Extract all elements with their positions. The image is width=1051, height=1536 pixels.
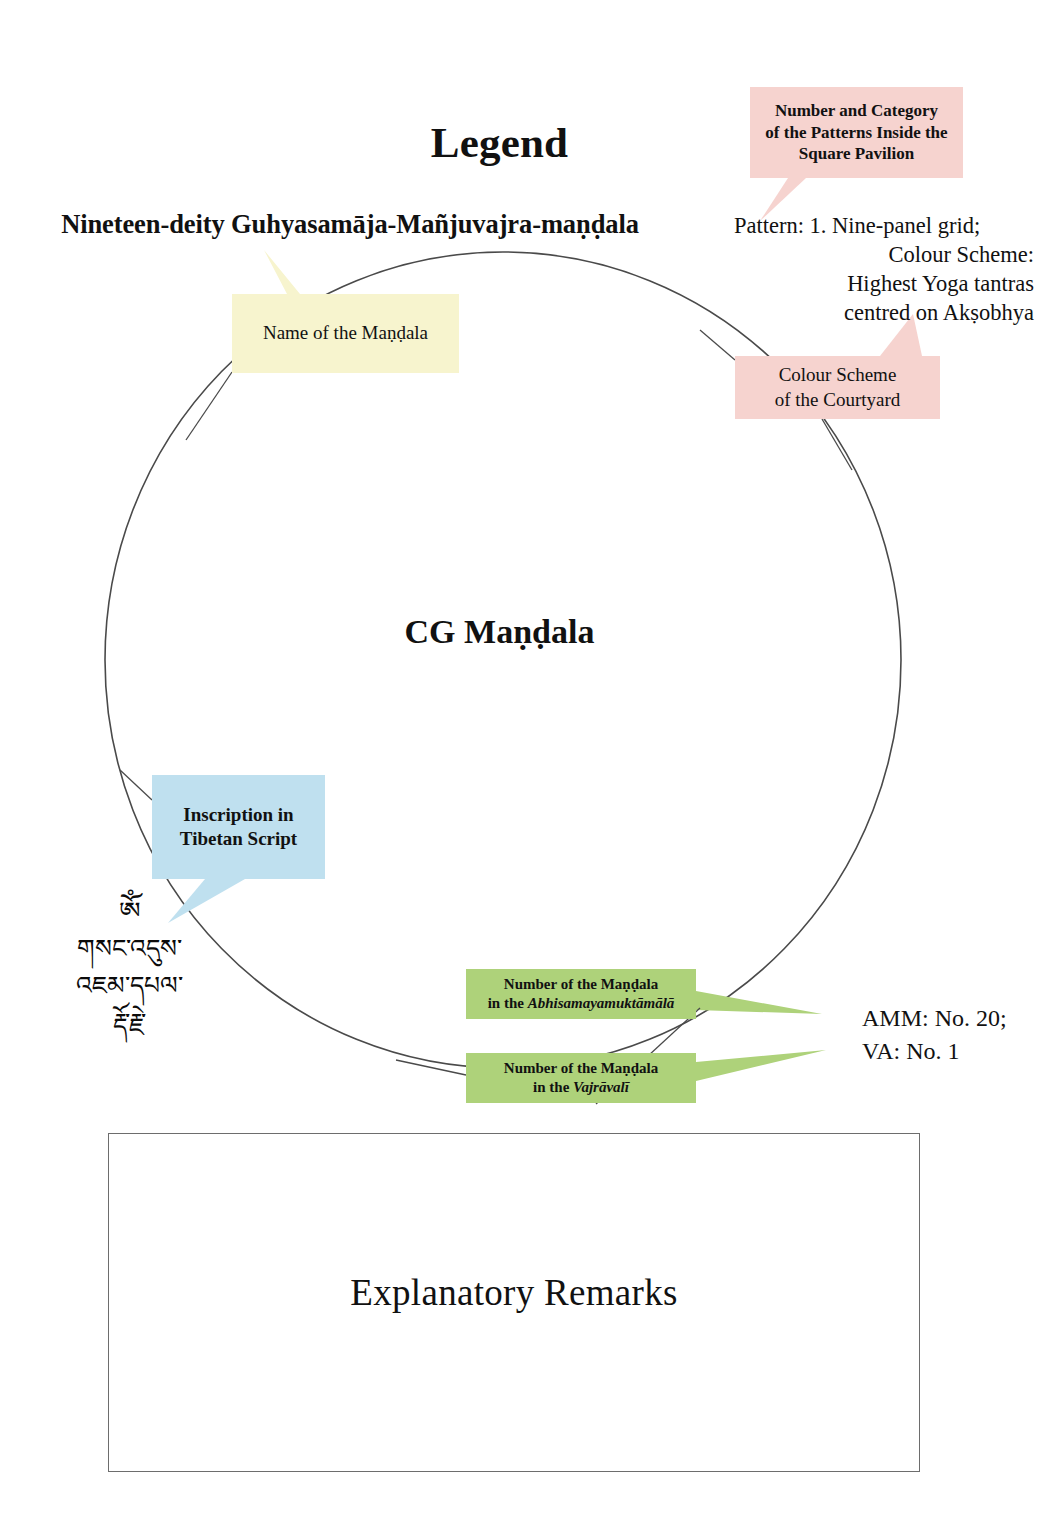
pattern-line-3: Highest Yoga tantras xyxy=(734,269,1034,298)
callout-inscription-tibetan-label: Inscription in Tibetan Script xyxy=(180,803,297,852)
legend-diagram: Legend Nineteen-deity Guhyasamāja-Mañjuv… xyxy=(0,0,1051,1536)
tibetan-line-3: འཇམ་དཔལ་ xyxy=(42,967,217,1004)
cg-mandala-label: CG Maṇḍala xyxy=(0,613,1025,651)
callout-amm-line-1: Number of the Maṇḍala xyxy=(504,976,658,992)
callout-patterns-inside-pavilion: Number and Category of the Patterns Insi… xyxy=(750,87,963,178)
tibetan-inscription-text: ༀ གསང་འདུས་ འཇམ་དཔལ་ རྡོ་རྗེ་ xyxy=(42,893,217,1041)
leader-line-colour-down xyxy=(822,419,852,470)
callout-amm-work-title: Abhisamayamuktāmālā xyxy=(528,995,675,1011)
leader-line-inscription xyxy=(120,770,152,800)
amm-callout-tail xyxy=(696,991,822,1014)
callout-inscription-tibetan: Inscription in Tibetan Script xyxy=(152,775,325,879)
callout-number-in-va: Number of the Maṇḍala in the Vajrāvalī xyxy=(466,1053,696,1103)
tibetan-line-2: གསང་འདུས་ xyxy=(42,930,217,967)
tibetan-line-4: རྡོ་རྗེ་ xyxy=(42,1004,217,1041)
callout-colour-line-2: of the Courtyard xyxy=(775,389,901,410)
tibetan-line-1: ༀ xyxy=(42,893,217,930)
mandala-name-heading: Nineteen-deity Guhyasamāja-Mañjuvajra-ma… xyxy=(0,209,700,240)
callout-name-of-mandala-label: Name of the Maṇḍala xyxy=(263,321,428,345)
leader-line-colour xyxy=(700,330,735,360)
callout-number-in-amm-label: Number of the Maṇḍala in the Abhisamayam… xyxy=(488,975,675,1013)
explanatory-remarks-label: Explanatory Remarks xyxy=(108,1271,920,1314)
callout-colour-scheme-courtyard: Colour Scheme of the Courtyard xyxy=(735,356,940,419)
callout-patterns-line-2: of the Patterns Inside the xyxy=(765,123,947,142)
leader-line-va xyxy=(396,1060,466,1075)
callout-inscription-line-1: Inscription in xyxy=(183,804,293,825)
callout-inscription-line-2: Tibetan Script xyxy=(180,828,297,849)
callout-colour-line-1: Colour Scheme xyxy=(779,364,897,385)
pattern-line-2: Colour Scheme: xyxy=(734,240,1034,269)
pattern-description: Pattern: 1. Nine-panel grid; Colour Sche… xyxy=(734,211,1034,327)
callout-va-line-1: Number of the Maṇḍala xyxy=(504,1060,658,1076)
callout-colour-scheme-courtyard-label: Colour Scheme of the Courtyard xyxy=(775,363,901,412)
callout-amm-line-2-prefix: in the xyxy=(488,995,528,1011)
callout-name-of-mandala: Name of the Maṇḍala xyxy=(232,294,459,373)
callout-number-in-va-label: Number of the Maṇḍala in the Vajrāvalī xyxy=(504,1059,658,1097)
pattern-line-1: Pattern: 1. Nine-panel grid; xyxy=(734,211,1034,240)
callout-number-in-amm: Number of the Maṇḍala in the Abhisamayam… xyxy=(466,969,696,1019)
callout-patterns-line-1: Number and Category xyxy=(775,101,938,120)
callout-va-work-title: Vajrāvalī xyxy=(573,1079,629,1095)
callout-patterns-line-3: Square Pavilion xyxy=(799,144,914,163)
amm-number: AMM: No. 20; xyxy=(862,1002,1007,1035)
va-number: VA: No. 1 xyxy=(862,1035,1007,1068)
pattern-line-4: centred on Akṣobhya xyxy=(734,298,1034,327)
callout-patterns-inside-pavilion-label: Number and Category of the Patterns Insi… xyxy=(765,100,947,165)
name-callout-tail xyxy=(232,250,300,300)
callout-va-line-2-prefix: in the xyxy=(533,1079,573,1095)
va-callout-tail xyxy=(696,1050,826,1081)
mandala-numbers: AMM: No. 20; VA: No. 1 xyxy=(862,1002,1007,1068)
leader-line-name xyxy=(186,372,232,440)
